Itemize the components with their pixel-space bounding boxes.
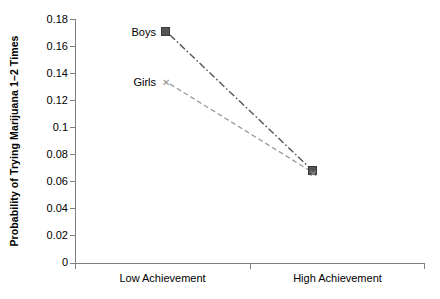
y-tick-label-0.08: 0.08 <box>30 149 68 160</box>
girls-series-line <box>170 84 312 172</box>
y-tick-label-0: 0 <box>30 257 68 268</box>
y-tick-label-0.1: 0.1 <box>30 122 68 133</box>
boys-marker-low-achievement <box>161 27 170 36</box>
y-tick-mark-0.06 <box>70 181 75 182</box>
x-tick-mark-left <box>75 264 76 269</box>
girls-marker-low-achievement: ✕ <box>161 78 170 87</box>
series-label-boys: Boys <box>100 26 156 38</box>
y-tick-mark-0.02 <box>70 235 75 236</box>
y-tick-label-0.06: 0.06 <box>30 176 68 187</box>
y-axis-tick-labels: 0.18 0.16 0.14 0.12 0.1 0.08 0.06 0.04 0… <box>28 0 68 299</box>
y-tick-label-0.04: 0.04 <box>30 203 68 214</box>
y-axis-line <box>75 19 76 264</box>
y-tick-label-0.18: 0.18 <box>30 14 68 25</box>
y-tick-mark-0.16 <box>70 46 75 47</box>
y-tick-mark-0.1 <box>70 127 75 128</box>
y-tick-label-0.12: 0.12 <box>30 95 68 106</box>
boys-series-line <box>170 35 312 170</box>
y-tick-mark-0.18 <box>70 19 75 20</box>
series-label-girls: Girls <box>100 76 156 88</box>
y-tick-mark-0.04 <box>70 208 75 209</box>
y-tick-label-0.14: 0.14 <box>30 68 68 79</box>
y-tick-mark-0.14 <box>70 73 75 74</box>
y-axis-title: Probability of Trying Marijuana 1–2 Time… <box>8 16 24 266</box>
y-tick-label-0.02: 0.02 <box>30 230 68 241</box>
y-tick-label-0.16: 0.16 <box>30 41 68 52</box>
girls-marker-high-achievement: ✕ <box>308 169 317 178</box>
line-chart: Probability of Trying Marijuana 1–2 Time… <box>0 0 440 299</box>
x-axis-label-low-achievement: Low Achievement <box>75 272 250 284</box>
x-tick-mark-middle <box>250 264 251 269</box>
x-axis-label-high-achievement: High Achievement <box>250 272 425 284</box>
x-tick-mark-right <box>424 264 425 269</box>
y-tick-mark-0.12 <box>70 100 75 101</box>
y-tick-mark-0.08 <box>70 154 75 155</box>
